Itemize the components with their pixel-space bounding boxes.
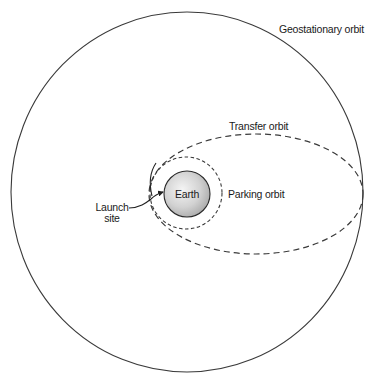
transfer-orbit-label: Transfer orbit	[229, 120, 289, 132]
launch-trajectory-arrow	[129, 192, 163, 208]
launch-site-label-line2: site	[104, 212, 120, 224]
orbit-diagram: Geostationary orbit Transfer orbit Parki…	[0, 0, 374, 379]
earth-label: Earth	[175, 188, 199, 200]
parking-orbit-label: Parking orbit	[228, 188, 285, 200]
geostationary-orbit-label: Geostationary orbit	[279, 23, 364, 35]
